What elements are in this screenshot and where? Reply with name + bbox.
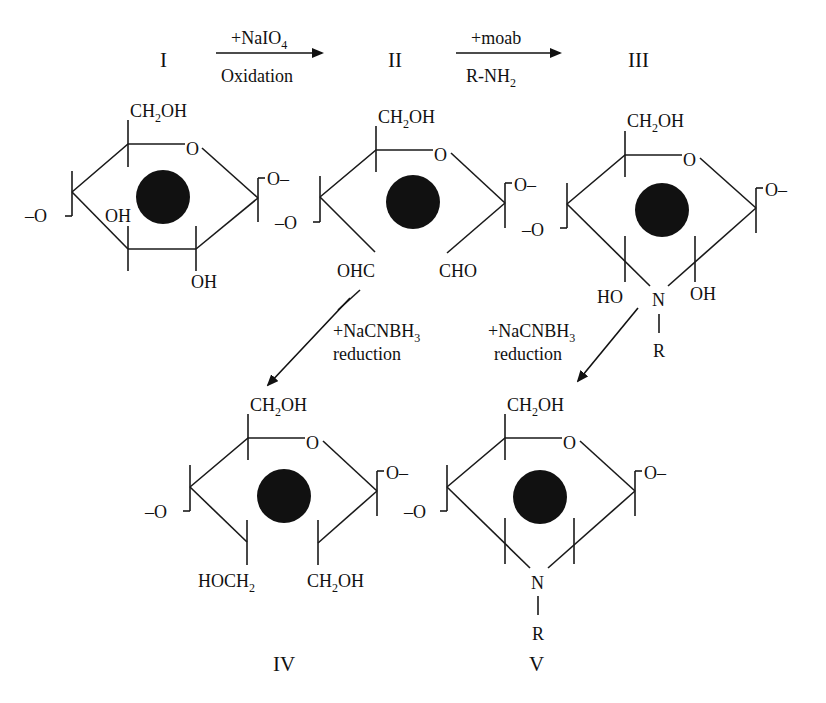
ring-oxygen: O bbox=[186, 139, 199, 159]
group-ch2oh: CH2OH bbox=[627, 111, 684, 135]
reaction-arrow-oxidation: +NaIO4 Oxidation bbox=[216, 28, 322, 86]
nanoparticle-core-icon bbox=[513, 470, 567, 524]
ring-oxygen: O bbox=[683, 150, 696, 170]
reaction-arrow-reduction-aldehyde: +NaCNBH3 reduction bbox=[268, 298, 420, 385]
ring-oxygen: O bbox=[563, 433, 576, 453]
glycosidic-link-right: O– bbox=[644, 463, 667, 483]
glycosidic-link-left: –O bbox=[274, 213, 297, 233]
structure-V: CH2OH O O– –O N R bbox=[403, 395, 667, 644]
nanoparticle-core-icon bbox=[136, 170, 190, 224]
group-ch2oh: CH2OH bbox=[507, 395, 564, 419]
glycosidic-link-right: O– bbox=[514, 175, 537, 195]
structure-II: CH2OH O O– –O OHC CHO bbox=[274, 107, 537, 310]
group-ch2oh: CH2OH bbox=[130, 101, 187, 125]
group-hoch2: HOCH2 bbox=[198, 571, 255, 595]
ring-nitrogen: N bbox=[531, 573, 544, 593]
hydroxyl-left: HO bbox=[597, 287, 623, 307]
condition-rnh2: R-NH2 bbox=[466, 66, 516, 90]
glycosidic-link-right: O– bbox=[765, 180, 788, 200]
compound-label-I: I bbox=[160, 48, 167, 72]
ring-nitrogen: N bbox=[652, 290, 665, 310]
compound-label-IV: IV bbox=[273, 652, 295, 676]
substituent-r: R bbox=[653, 341, 665, 361]
group-ch2oh: CH2OH bbox=[378, 107, 435, 131]
hydroxyl-right: OH bbox=[690, 284, 716, 304]
reaction-arrow-reduction-imine: +NaCNBH3 reduction bbox=[488, 308, 638, 381]
hydroxyl-c3: OH bbox=[105, 206, 131, 226]
ring-oxygen: O bbox=[434, 145, 447, 165]
reagent-naio4: +NaIO4 bbox=[231, 28, 287, 52]
hydroxyl-c2: OH bbox=[191, 272, 217, 292]
aldehyde-cho: CHO bbox=[439, 261, 477, 281]
compound-label-V: V bbox=[529, 652, 544, 676]
glycosidic-link-left: –O bbox=[24, 206, 47, 226]
reagent-nacnbh3: +NaCNBH3 bbox=[488, 321, 575, 345]
nanoparticle-core-icon bbox=[635, 183, 689, 237]
glycosidic-link-left: –O bbox=[521, 220, 544, 240]
structure-I: CH2OH O O– –O OH OH bbox=[24, 101, 290, 292]
nanoparticle-core-icon bbox=[386, 175, 440, 229]
reaction-arrow-amination: +moab R-NH2 bbox=[456, 28, 560, 90]
compound-label-III: III bbox=[628, 48, 649, 72]
glycosidic-link-left: –O bbox=[403, 502, 426, 522]
ring-oxygen: O bbox=[306, 433, 319, 453]
condition-reduction: reduction bbox=[494, 344, 562, 364]
group-ch2oh-reduced: CH2OH bbox=[307, 571, 364, 595]
condition-reduction: reduction bbox=[333, 344, 401, 364]
substituent-r: R bbox=[532, 624, 544, 644]
compound-label-II: II bbox=[388, 48, 402, 72]
glycosidic-link-right: O– bbox=[267, 169, 290, 189]
condition-oxidation: Oxidation bbox=[221, 66, 293, 86]
nanoparticle-core-icon bbox=[257, 469, 311, 523]
reagent-nacnbh3: +NaCNBH3 bbox=[333, 321, 420, 345]
glycosidic-link-right: O– bbox=[386, 463, 409, 483]
aldehyde-ohc: OHC bbox=[337, 261, 375, 281]
structure-IV: CH2OH O O– –O HOCH2 CH2OH bbox=[144, 395, 409, 595]
group-ch2oh: CH2OH bbox=[250, 395, 307, 419]
reagent-moab: +moab bbox=[471, 28, 521, 48]
reaction-scheme-diagram: I II III +NaIO4 Oxidation +moab R-NH2 CH… bbox=[0, 0, 826, 703]
glycosidic-link-left: –O bbox=[144, 502, 167, 522]
